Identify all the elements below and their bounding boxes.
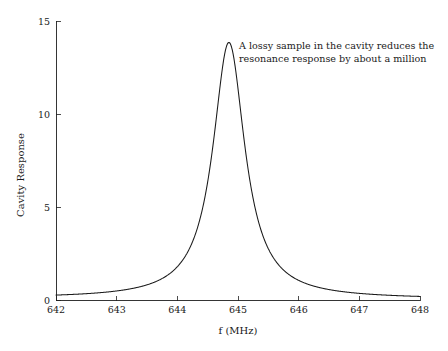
cavity-response-plot: 15 10 5 0 642 643 644 645 646 647 648 f …	[0, 0, 448, 351]
x-tick-label-646: 646	[290, 304, 308, 315]
annotation-line-1: A lossy sample in the cavity reduces the	[238, 40, 434, 51]
x-tick-label-643: 643	[108, 304, 126, 315]
y-tick-label-5: 5	[44, 202, 50, 213]
chart-figure: 15 10 5 0 642 643 644 645 646 647 648 f …	[0, 0, 448, 351]
x-tick-label-642: 642	[47, 304, 65, 315]
x-tick-label-644: 644	[168, 304, 186, 315]
x-axis-title: f (MHz)	[219, 325, 258, 336]
x-tick-label-647: 647	[350, 304, 368, 315]
y-axis-title: Cavity Response	[15, 133, 26, 217]
x-tick-label-645: 645	[229, 304, 247, 315]
y-tick-label-10: 10	[38, 109, 50, 120]
y-tick-label-15: 15	[38, 16, 50, 27]
annotation-line-2: resonance response by about a million	[239, 53, 427, 64]
x-tick-label-648: 648	[411, 304, 429, 315]
